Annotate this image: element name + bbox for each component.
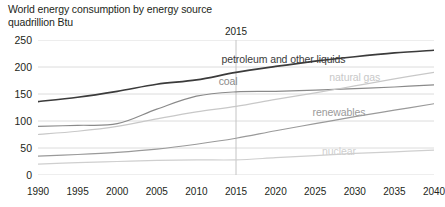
x-tick-label: 2035 <box>383 186 405 197</box>
x-tick-label: 2040 <box>423 186 445 197</box>
x-tick-label: 2020 <box>264 186 286 197</box>
x-tick-label: 2010 <box>185 186 207 197</box>
series-label-renewables: renewables <box>313 106 366 118</box>
x-tick-label: 2000 <box>106 186 128 197</box>
y-tick-label: 150 <box>2 88 32 100</box>
y-tick-label: 0 <box>2 169 32 181</box>
y-tick-label: 50 <box>2 142 32 154</box>
chart-title-block: World energy consumption by energy sourc… <box>8 3 212 28</box>
x-tick-label: 2015 <box>225 186 247 197</box>
y-tick-label: 100 <box>2 115 32 127</box>
history-projection-marker-label: 2015 <box>225 26 247 37</box>
y-tick-label: 200 <box>2 61 32 73</box>
x-tick-label: 2005 <box>146 186 168 197</box>
chart-subtitle: quadrillion Btu <box>8 16 212 29</box>
series-label-petroleum-and-other-liquids: petroleum and other liquids <box>222 53 346 65</box>
x-tick-label: 2030 <box>344 186 366 197</box>
page-title: World energy consumption by energy sourc… <box>8 3 212 16</box>
series-label-natural-gas: natural gas <box>329 71 380 83</box>
y-tick-label: 250 <box>2 34 32 46</box>
series-label-coal: coal <box>219 75 238 87</box>
x-tick-label: 2025 <box>304 186 326 197</box>
series-label-nuclear: nuclear <box>322 145 356 157</box>
x-tick-label: 1995 <box>66 186 88 197</box>
x-tick-label: 1990 <box>27 186 49 197</box>
